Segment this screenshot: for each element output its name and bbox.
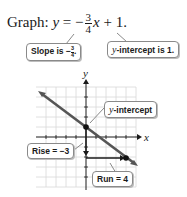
intercept-text: -intercept is 1. [116, 45, 174, 55]
second-point [123, 155, 129, 161]
intercept-callout: y-intercept is 1. [107, 41, 179, 58]
y-intercept-point [83, 124, 89, 130]
rise-arrowhead-icon [83, 151, 89, 156]
rise-pointer [74, 143, 83, 150]
rise-text: Rise = −3 [32, 146, 69, 156]
x-axis-label: x [143, 131, 149, 143]
graph-intercept-pointer [90, 108, 104, 123]
run-callout: Run = 4 [92, 171, 133, 187]
rise-callout: Rise = −3 [27, 143, 74, 159]
slope-text: Slope is − [31, 46, 71, 56]
graph: x y [0, 0, 187, 197]
slope-callout: Slope is −34. [26, 43, 81, 61]
y-axis-label: y [82, 67, 88, 79]
run-text: Run = 4 [97, 174, 128, 184]
graph-intercept-callout: y-intercept [104, 101, 157, 118]
y-axis-arrow-icon [83, 79, 89, 84]
x-axis-arrow-icon [137, 134, 142, 140]
slope-end: . [74, 46, 76, 56]
graph-intercept-text: -intercept [113, 105, 152, 115]
